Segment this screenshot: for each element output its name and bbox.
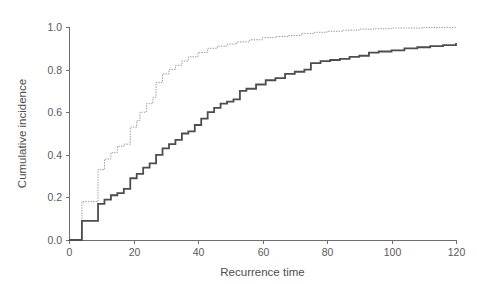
x-tick-label: 40 <box>193 246 205 258</box>
y-tick-label: 0.4 <box>47 149 62 161</box>
series-line-upper-curve <box>69 27 456 240</box>
x-tick-label: 100 <box>384 246 402 258</box>
axis-tick-marks <box>66 28 457 245</box>
y-tick-label: 1.0 <box>47 21 62 33</box>
x-tick-label: 20 <box>129 246 141 258</box>
x-tick-label: 80 <box>322 246 334 258</box>
y-axis-tick-labels: 0.00.20.40.60.81.0 <box>47 21 62 246</box>
x-tick-label: 120 <box>448 246 466 258</box>
y-tick-label: 0.2 <box>47 191 62 203</box>
figure-container: 0.00.20.40.60.81.0 020406080100120 Recur… <box>0 0 477 284</box>
y-tick-label: 0.8 <box>47 64 62 76</box>
cumulative-incidence-chart: 0.00.20.40.60.81.0 020406080100120 Recur… <box>0 0 477 284</box>
y-tick-label: 0.0 <box>47 234 62 246</box>
y-tick-label: 0.6 <box>47 106 62 118</box>
x-tick-label: 60 <box>258 246 270 258</box>
x-axis-tick-labels: 020406080100120 <box>67 246 466 258</box>
x-axis-title: Recurrence time <box>220 266 304 278</box>
series-line-lower-curve <box>69 43 456 240</box>
x-tick-label: 0 <box>67 246 73 258</box>
y-axis-title: Cumulative incidence <box>16 79 28 188</box>
